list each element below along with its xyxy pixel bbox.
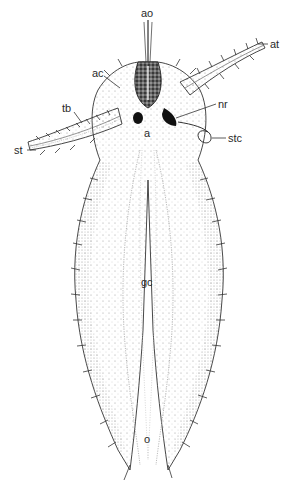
label-stc: stc [228, 132, 243, 144]
label-tb: tb [62, 102, 71, 114]
label-at: at [270, 38, 279, 50]
label-st: st [14, 144, 23, 156]
label-ao: ao [141, 7, 153, 19]
label-a: a [144, 127, 151, 139]
larva-diagram: ao at ac nr tb a stc st gc o [0, 0, 299, 485]
label-nr: nr [218, 98, 228, 110]
label-ac: ac [92, 67, 104, 79]
label-o: o [144, 433, 150, 445]
label-gc: gc [141, 276, 153, 288]
right-tentacle [180, 38, 265, 95]
